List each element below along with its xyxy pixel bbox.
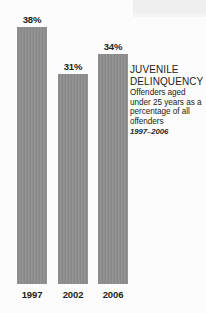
juvenile-delinquency-bar-chart: 38% 1997 31% 2002 34% 2006 JUVENILE DELI… [0,0,206,313]
chart-title: JUVENILE DELINQUENCY [130,64,206,87]
bar-1997 [17,27,47,284]
bar-value-label-2002: 31% [58,61,88,72]
chart-plot-area: 38% 1997 31% 2002 34% 2006 [0,0,140,313]
chart-caption: JUVENILE DELINQUENCY Offenders aged unde… [130,64,206,136]
bar-group-1997: 38% 1997 [17,0,47,313]
chart-subtitle: Offenders aged under 25 years as a perce… [130,88,206,126]
scan-artifact-band [133,0,206,14]
bar-2002 [58,74,88,284]
chart-period-label: 1997–2006 [130,127,206,136]
scan-artifact-band-fade [133,13,206,17]
bar-group-2002: 31% 2002 [58,0,88,313]
bar-value-label-2006: 34% [98,41,128,52]
bar-year-label-1997: 1997 [15,289,49,300]
bar-year-label-2006: 2006 [96,289,130,300]
bar-value-label-1997: 38% [17,14,47,25]
bar-year-label-2002: 2002 [56,289,90,300]
bar-2006 [98,54,128,284]
bar-group-2006: 34% 2006 [98,0,128,313]
